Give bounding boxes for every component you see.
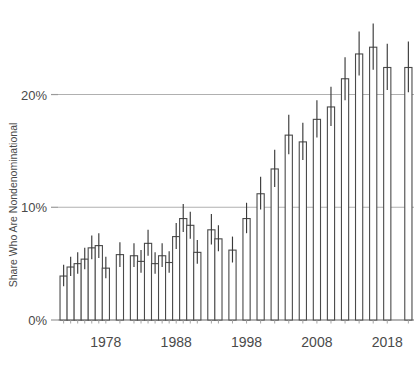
- bar-1990: [187, 225, 194, 320]
- bar-2014: [356, 54, 363, 320]
- bar-2008: [313, 119, 320, 320]
- bar-2021: [405, 67, 412, 320]
- bar-2002: [271, 169, 278, 320]
- bar-2006: [299, 142, 306, 320]
- bar-2000: [257, 194, 264, 320]
- bar-2018: [384, 67, 391, 320]
- y-tick-label-10: 10%: [21, 200, 47, 215]
- bar-2004: [285, 135, 292, 320]
- bar-1989: [180, 219, 187, 320]
- bar-2016: [370, 47, 377, 320]
- x-tick-label-1978: 1978: [90, 334, 121, 350]
- x-tick-label-1988: 1988: [161, 334, 192, 350]
- y-tick-label-20: 20%: [21, 88, 47, 103]
- nondenominational-share-bar-chart: Share Who Are Nondenominational 0%10%20%…: [0, 0, 419, 371]
- bar-2010: [327, 107, 334, 320]
- bar-1998: [243, 219, 250, 320]
- x-tick-label-2008: 2008: [301, 334, 332, 350]
- chart-canvas: Share Who Are Nondenominational 0%10%20%…: [0, 0, 419, 371]
- bar-2012: [341, 79, 348, 320]
- x-tick-label-1998: 1998: [231, 334, 262, 350]
- y-tick-label-0: 0%: [28, 313, 47, 328]
- bar-1988: [173, 237, 180, 320]
- x-tick-label-2018: 2018: [372, 334, 403, 350]
- y-axis-title: Share Who Are Nondenominational: [7, 123, 19, 288]
